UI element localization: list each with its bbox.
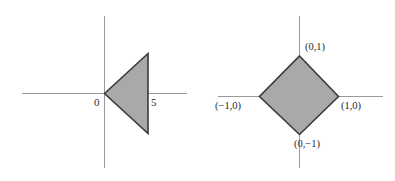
figure-background bbox=[0, 0, 395, 181]
right-plot-left-vertex-label: (−1,0) bbox=[215, 100, 242, 112]
figure-canvas: 0 5 (0,1) (1,0) (0,−1) (−1,0) bbox=[0, 0, 395, 181]
right-plot-right-vertex-label: (1,0) bbox=[341, 100, 362, 112]
left-plot-five-label: 5 bbox=[151, 96, 157, 108]
right-plot-top-vertex-label: (0,1) bbox=[305, 41, 326, 53]
right-plot-bottom-vertex-label: (0,−1) bbox=[294, 138, 321, 150]
left-plot-origin-label: 0 bbox=[94, 96, 100, 108]
